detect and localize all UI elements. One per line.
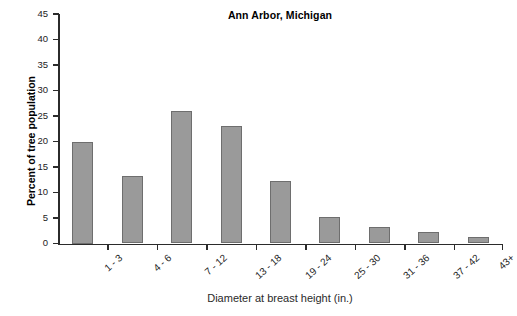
y-tick-label: 40 xyxy=(26,33,48,44)
y-tick-mark xyxy=(53,115,59,116)
bar xyxy=(369,227,390,244)
bar xyxy=(122,176,143,243)
x-tick-mark xyxy=(305,244,306,250)
bar xyxy=(72,142,93,244)
y-tick-label: 5 xyxy=(26,212,48,223)
x-category-label: 31 - 36 xyxy=(401,252,432,281)
plot-area: 051015202530354045 1 - 34 - 67 - 1213 - … xyxy=(58,14,503,245)
bar xyxy=(468,237,489,244)
bar xyxy=(418,232,439,244)
x-tick-mark xyxy=(355,244,356,250)
y-tick-label: 15 xyxy=(26,161,48,172)
x-category-label: 13 - 18 xyxy=(253,252,284,281)
y-tick-mark xyxy=(53,39,59,40)
x-tick-mark xyxy=(404,244,405,250)
bar xyxy=(270,181,291,243)
y-tick-mark xyxy=(53,166,59,167)
y-tick-label: 10 xyxy=(26,186,48,197)
y-tick-label: 35 xyxy=(26,59,48,70)
bar xyxy=(171,111,192,244)
x-tick-mark xyxy=(107,244,108,250)
x-category-label: 43+ xyxy=(497,252,517,272)
x-tick-mark xyxy=(454,244,455,250)
y-tick-mark xyxy=(53,217,59,218)
y-tick-mark xyxy=(53,13,59,14)
y-axis-line xyxy=(58,14,60,245)
x-tick-mark xyxy=(502,244,503,250)
bar xyxy=(319,217,340,244)
x-category-label: 7 - 12 xyxy=(202,252,228,277)
bar xyxy=(221,126,242,243)
x-category-label: 1 - 3 xyxy=(102,252,124,274)
y-tick-label: 45 xyxy=(26,8,48,19)
x-axis-label: Diameter at breast height (in.) xyxy=(60,292,500,304)
x-tick-mark xyxy=(157,244,158,250)
x-category-label: 4 - 6 xyxy=(151,252,173,274)
x-axis-line xyxy=(58,244,503,246)
y-tick-mark xyxy=(53,192,59,193)
x-tick-mark xyxy=(256,244,257,250)
y-tick-label: 30 xyxy=(26,84,48,95)
y-tick-mark xyxy=(53,141,59,142)
x-category-label: 37 - 42 xyxy=(451,252,482,281)
y-tick-mark xyxy=(53,64,59,65)
x-category-label: 25 - 30 xyxy=(352,252,383,281)
y-tick-mark xyxy=(53,90,59,91)
y-tick-label: 20 xyxy=(26,135,48,146)
x-tick-mark xyxy=(206,244,207,250)
y-tick-label: 25 xyxy=(26,110,48,121)
x-category-label: 19 - 24 xyxy=(302,252,333,281)
y-tick-mark xyxy=(53,243,59,244)
y-tick-label: 0 xyxy=(26,237,48,248)
